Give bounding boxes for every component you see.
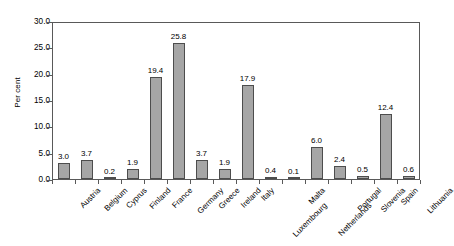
bar-value-label: 3.7	[72, 150, 102, 158]
bar-value-label: 3.7	[187, 150, 217, 158]
x-axis-category-label: Lithuania	[425, 186, 454, 215]
x-axis-category-labels: AustriaBelgiumCyprusFinlandFranceGermany…	[52, 184, 420, 246]
x-axis-category-label: Belgium	[102, 186, 129, 213]
y-axis-tick-label: 0.0	[16, 176, 50, 184]
bar-value-label: 17.9	[233, 75, 263, 83]
bar-value-label: 0.6	[394, 166, 424, 174]
x-axis-category-label: Luxembourg	[291, 201, 329, 239]
bar-value-label: 12.4	[371, 104, 401, 112]
bar-value-label: 0.5	[348, 166, 378, 174]
value-labels-container: 3.03.70.21.919.425.83.71.917.90.40.16.02…	[52, 0, 420, 200]
bar-value-label: 6.0	[302, 137, 332, 145]
bar-value-label: 25.8	[164, 33, 194, 41]
bar-value-label: 0.1	[279, 168, 309, 176]
y-axis-tick-label: 15.0	[16, 97, 50, 105]
y-axis-tick-label: 25.0	[16, 44, 50, 52]
bar-value-label: 2.4	[325, 156, 355, 164]
x-axis-tick-mark	[420, 180, 421, 184]
x-axis-category-label: Finland	[147, 186, 172, 211]
bar-value-label: 1.9	[118, 159, 148, 167]
x-axis-category-label: Italy	[259, 186, 276, 203]
x-axis-category-label: Austria	[78, 186, 102, 210]
bar-value-label: 1.9	[210, 159, 240, 167]
y-axis-tick-label: 10.0	[16, 123, 50, 131]
bar-value-label: 19.4	[141, 67, 171, 75]
y-axis-tick-label: 5.0	[16, 150, 50, 158]
y-axis-tick-label: 30.0	[16, 18, 50, 26]
y-axis-tick-labels: 30.025.020.015.010.05.00.0	[12, 0, 50, 246]
x-axis-category-label: France	[170, 186, 194, 210]
x-axis-category-label: Ireland	[239, 186, 263, 210]
bar-value-label: 0.2	[95, 168, 125, 176]
y-axis-tick-label: 20.0	[16, 71, 50, 79]
